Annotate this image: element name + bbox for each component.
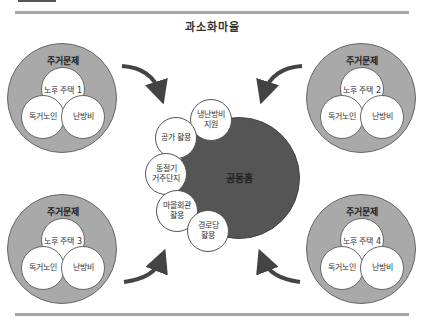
housing-problem-group-2: 주거문제 노후 주택 2 독거노인 난방비 bbox=[306, 43, 418, 155]
arrow-top-left bbox=[122, 66, 160, 93]
elderly-alone-circle: 독거노인 bbox=[21, 95, 65, 139]
heating-cost-circle: 난방비 bbox=[360, 246, 404, 290]
housing-problem-group-4: 주거문제 노후 주택 4 독거노인 난방비 bbox=[306, 194, 418, 306]
satellite-senior-center: 경로당활용 bbox=[187, 210, 229, 252]
elderly-alone-circle: 독거노인 bbox=[320, 246, 364, 290]
group-label: 주거문제 bbox=[7, 54, 118, 67]
heating-cost-circle: 난방비 bbox=[61, 246, 105, 290]
satellite-winter-complex: 동절기거주단지 bbox=[145, 153, 187, 195]
group-label: 주거문제 bbox=[7, 205, 118, 218]
elderly-alone-circle: 독거노인 bbox=[21, 246, 65, 290]
arrow-bottom-right bbox=[263, 260, 300, 282]
heating-cost-circle: 난방비 bbox=[61, 95, 105, 139]
group-label: 주거문제 bbox=[306, 54, 417, 67]
elderly-alone-circle: 독거노인 bbox=[320, 95, 364, 139]
housing-problem-group-3: 주거문제 노후 주택 3 독거노인 난방비 bbox=[7, 194, 119, 306]
heating-cost-circle: 난방비 bbox=[360, 95, 404, 139]
bottom-rule bbox=[15, 313, 409, 316]
arrow-bottom-left bbox=[124, 260, 161, 282]
arrow-top-right bbox=[264, 66, 302, 93]
group-label: 주거문제 bbox=[306, 205, 417, 218]
hub-label: 공동홈 bbox=[178, 170, 300, 185]
housing-problem-group-1: 주거문제 노후 주택 1 독거노인 난방비 bbox=[7, 43, 119, 155]
